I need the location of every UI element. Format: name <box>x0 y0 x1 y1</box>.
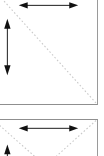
vertical-arrow-head-top <box>4 144 10 154</box>
horizontal-arrow-head-right <box>69 2 78 8</box>
horizontal-arrow-head-right <box>69 125 78 131</box>
horizontal-dimension-arrow <box>19 125 78 131</box>
upper-panel-graphics <box>0 0 97 104</box>
horizontal-arrow-head-left <box>19 125 28 131</box>
vertical-dimension-arrow <box>4 19 10 76</box>
upper-diagram-panel <box>0 0 98 105</box>
vertical-dimension-arrow <box>4 144 10 156</box>
figure-canvas <box>0 0 104 156</box>
horizontal-arrow-head-left <box>19 2 28 8</box>
diagonal-top-left-to-bottom-right <box>0 0 96 103</box>
lower-panel-graphics <box>0 120 97 156</box>
vertical-arrow-head-bottom <box>4 65 10 75</box>
vertical-arrow-head-top <box>4 19 10 29</box>
lower-diagram-panel <box>0 119 98 156</box>
horizontal-dimension-arrow <box>19 2 78 8</box>
